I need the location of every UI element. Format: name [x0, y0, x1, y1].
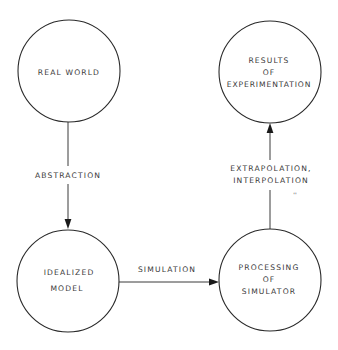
edge-label-interpolation: INTERPOLATION: [233, 176, 309, 185]
node-real-world: REAL WORLD: [18, 20, 120, 122]
edge-simulation: SIMULATION: [117, 265, 219, 286]
node-label-line-1: PROCESSING: [239, 263, 300, 272]
arrowhead-up-icon: [267, 123, 274, 133]
node-circle: [17, 230, 119, 332]
edge-extrapolation-interpolation: EXTRAPOLATION, INTERPOLATION '': [230, 123, 311, 229]
node-label-line-2: MODEL: [50, 284, 83, 293]
edge-abstraction: ABSTRACTION: [35, 122, 101, 229]
node-label-line-3: SIMULATOR: [242, 287, 296, 296]
arrowhead-down-icon: [65, 219, 72, 229]
node-label-line-1: RESULTS: [248, 56, 289, 65]
arrowhead-right-icon: [209, 279, 219, 286]
edge-annotation-mark: '': [293, 191, 297, 198]
diagram-canvas: ABSTRACTION SIMULATION EXTRAPOLATION, IN…: [0, 0, 338, 350]
edge-label-abstraction: ABSTRACTION: [35, 171, 101, 180]
node-label-line-2: OF: [263, 68, 276, 77]
node-label-line-1: IDEALIZED: [44, 268, 95, 277]
edge-label-simulation: SIMULATION: [138, 265, 196, 274]
node-label-line-3: EXPERIMENTATION: [227, 80, 312, 89]
node-label: REAL WORLD: [38, 68, 100, 77]
node-idealized-model: IDEALIZED MODEL: [17, 230, 119, 332]
node-label-line-2: OF: [263, 275, 276, 284]
node-results-of-experimentation: RESULTS OF EXPERIMENTATION: [219, 21, 321, 123]
node-processing-of-simulator: PROCESSING OF SIMULATOR: [219, 229, 321, 331]
edge-label-extrapolation: EXTRAPOLATION,: [230, 164, 311, 173]
